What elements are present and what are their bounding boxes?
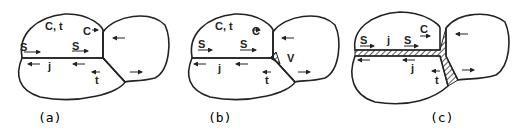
svg-text:j: j bbox=[410, 62, 414, 74]
svg-text:C: C bbox=[420, 23, 428, 35]
svg-text:S: S bbox=[240, 38, 247, 50]
svg-text:t: t bbox=[435, 74, 439, 86]
label-j: j bbox=[47, 60, 51, 72]
caption-a: (a) bbox=[38, 110, 61, 125]
label-c-t: C, t bbox=[45, 20, 63, 32]
caption-c: (c) bbox=[430, 110, 453, 125]
svg-text:S: S bbox=[198, 38, 205, 50]
panel-b bbox=[189, 14, 339, 100]
label-s: S bbox=[72, 40, 79, 52]
svg-text:t: t bbox=[265, 74, 269, 86]
caption-b: (b) bbox=[208, 110, 231, 125]
label-c: C bbox=[83, 25, 91, 37]
svg-text:C: C bbox=[252, 25, 260, 37]
figure-diagram: C, t C S S j t (a) C, t C S S j V t (b) bbox=[0, 0, 525, 133]
svg-text:j: j bbox=[217, 62, 221, 74]
svg-text:V: V bbox=[287, 52, 295, 64]
label-s: S bbox=[20, 41, 27, 53]
svg-text:S: S bbox=[360, 34, 367, 46]
panel-c bbox=[352, 12, 509, 104]
panel-a bbox=[19, 14, 169, 100]
svg-text:j: j bbox=[386, 34, 390, 46]
svg-text:S: S bbox=[404, 34, 411, 46]
svg-text:C, t: C, t bbox=[215, 20, 233, 32]
label-t: t bbox=[95, 74, 99, 86]
